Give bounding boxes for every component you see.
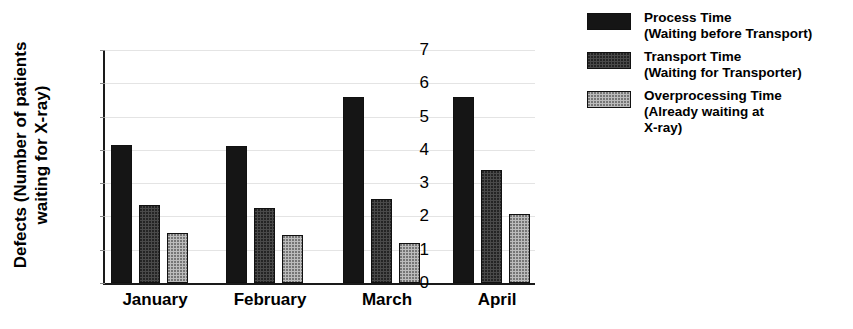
legend-label-line: Process Time <box>644 10 812 26</box>
y-axis-title-line-1: Defects (Number of patients <box>10 42 31 269</box>
bars-layer <box>103 50 533 283</box>
bar <box>481 170 502 283</box>
legend-item-label: Overprocessing Time(Already waiting atX-… <box>644 88 782 136</box>
bar <box>371 199 392 283</box>
x-axis-label-april: April <box>478 290 517 310</box>
legend-label-line: (Already waiting at <box>644 104 782 120</box>
legend-label-line: (Waiting before Transport) <box>644 26 812 42</box>
y-axis-title-line-2: waiting for X-ray) <box>31 42 52 269</box>
overprocessing-time-swatch <box>587 91 631 108</box>
bar <box>509 214 530 283</box>
legend-item[interactable]: Process Time(Waiting before Transport) <box>587 10 853 42</box>
bar <box>167 233 188 283</box>
legend-label-line: X-ray) <box>644 120 782 136</box>
x-axis-labels: JanuaryFebruaryMarchApril <box>103 290 533 320</box>
y-axis-title: Defects (Number of patients waiting for … <box>0 0 62 310</box>
x-axis-label-march: March <box>362 290 412 310</box>
bar <box>111 145 132 283</box>
bar <box>254 208 275 283</box>
legend-item[interactable]: Overprocessing Time(Already waiting atX-… <box>587 88 853 136</box>
x-axis-label-february: February <box>234 290 307 310</box>
chart-root: Defects (Number of patients waiting for … <box>0 0 853 329</box>
legend-label-line: Transport Time <box>644 49 802 65</box>
legend-item-label: Process Time(Waiting before Transport) <box>644 10 812 42</box>
bar <box>282 235 303 283</box>
bar <box>139 205 160 283</box>
process-time-swatch <box>587 13 631 30</box>
bar-group <box>453 50 537 283</box>
bar <box>343 97 364 283</box>
bar <box>226 146 247 283</box>
bar-group <box>111 50 195 283</box>
transport-time-swatch <box>587 52 631 69</box>
bar-group <box>343 50 427 283</box>
legend-item-label: Transport Time(Waiting for Transporter) <box>644 49 802 81</box>
legend-label-line: (Waiting for Transporter) <box>644 65 802 81</box>
bar <box>453 97 474 283</box>
chart-legend: Process Time(Waiting before Transport)Tr… <box>587 10 853 143</box>
legend-label-line: Overprocessing Time <box>644 88 782 104</box>
x-axis-label-january: January <box>122 290 187 310</box>
bar <box>399 243 420 283</box>
bar-group <box>226 50 310 283</box>
legend-item[interactable]: Transport Time(Waiting for Transporter) <box>587 49 853 81</box>
y-axis-tick <box>100 283 105 284</box>
